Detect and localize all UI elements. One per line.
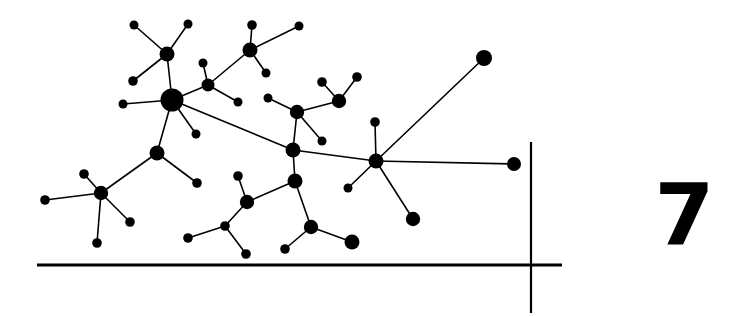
graph-node [288, 174, 303, 189]
graph-node [233, 171, 243, 181]
graph-node [234, 98, 243, 107]
graph-node [290, 105, 304, 119]
graph-node [344, 184, 353, 193]
graph-node [220, 221, 230, 231]
graph-node [119, 100, 128, 109]
graph-edge-layer [45, 24, 514, 254]
graph-node [247, 20, 257, 30]
graph-node [280, 244, 290, 254]
graph-node [79, 169, 89, 179]
figure-container: 7 [0, 0, 738, 317]
graph-node [160, 47, 175, 62]
graph-node [318, 137, 327, 146]
graph-edge [247, 181, 295, 202]
graph-node [406, 212, 420, 226]
graph-node [295, 22, 304, 31]
graph-edge [225, 226, 246, 254]
graph-node [507, 157, 521, 171]
graph-edge [250, 26, 299, 50]
graph-node [304, 220, 318, 234]
graph-node-layer [40, 20, 521, 259]
graph-node [202, 79, 215, 92]
graph-node [125, 217, 135, 227]
graph-node [240, 195, 254, 209]
graph-node [345, 235, 360, 250]
figure-number-label: 7 [652, 168, 716, 262]
rule-layer [37, 142, 562, 313]
graph-node [183, 233, 193, 243]
graph-node [476, 50, 492, 66]
graph-node [192, 130, 201, 139]
graph-node [192, 178, 202, 188]
graph-node [128, 76, 138, 86]
graph-node [243, 43, 258, 58]
graph-edge [376, 161, 413, 219]
graph-node [184, 20, 193, 29]
graph-node [286, 143, 301, 158]
graph-node [264, 94, 273, 103]
graph-edge [101, 153, 157, 193]
graph-node [150, 146, 165, 161]
graph-node [317, 77, 327, 87]
graph-node [370, 117, 380, 127]
graph-edge [376, 58, 484, 161]
network-graph [0, 0, 738, 317]
graph-node [199, 59, 208, 68]
graph-edge [293, 150, 376, 161]
graph-node [369, 154, 384, 169]
graph-edge [188, 226, 225, 238]
graph-node [40, 195, 50, 205]
graph-node [262, 69, 271, 78]
graph-edge [45, 193, 101, 200]
graph-node [92, 238, 102, 248]
graph-node [332, 94, 346, 108]
graph-edge [376, 161, 514, 164]
graph-node [130, 21, 139, 30]
graph-edge [208, 50, 250, 85]
graph-edge [97, 193, 101, 243]
graph-node [161, 89, 184, 112]
graph-node [94, 186, 108, 200]
graph-node [241, 249, 251, 259]
graph-node [352, 72, 362, 82]
